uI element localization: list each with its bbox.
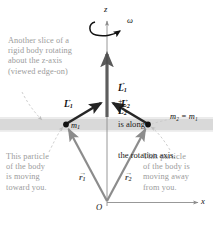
m1-subscript: 1 (77, 123, 80, 130)
mass-m2-equation-label: m₂ = m₁ (170, 112, 198, 121)
omega-rotation-arrow (90, 22, 120, 36)
leader-slice-caption (22, 92, 42, 120)
L1-arrow-glyph: → (118, 78, 126, 88)
r1-vector-arrow-icon: → (79, 168, 86, 177)
r1-vector-label: →r1 (79, 172, 86, 182)
particle-m1-dot (63, 122, 69, 128)
L1-vector-label: →L1 (64, 99, 73, 109)
resultant-caption-text2: the rotation axis. (118, 150, 176, 160)
r2-vector-label: →r2 (125, 172, 132, 182)
L2-vector-label: →L2 (121, 99, 130, 109)
L1-vector-arrow-icon: → (64, 95, 72, 104)
r2-vector-arrow-icon: → (125, 168, 132, 177)
mass-m1-label: m1 (71, 121, 80, 130)
toward-you-caption: This particle of the body is moving towa… (6, 152, 74, 193)
origin-label: O (96, 202, 102, 212)
slice-caption: Another slice of a rigid body rotating a… (8, 36, 104, 77)
z-axis-label: z (104, 4, 107, 14)
L2-vector-arrow-icon: → (121, 95, 129, 104)
resultant-caption-text1: is along (118, 119, 145, 129)
omega-label: ω (127, 16, 133, 25)
x-axis-label: x (201, 196, 205, 206)
physics-figure: Another slice of a rigid body rotating a… (0, 0, 213, 225)
r1-vector (69, 129, 108, 201)
